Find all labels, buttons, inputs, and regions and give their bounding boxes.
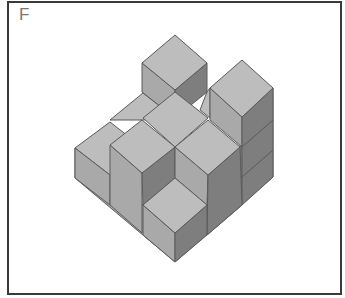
cube-stack-diagram xyxy=(0,0,345,298)
